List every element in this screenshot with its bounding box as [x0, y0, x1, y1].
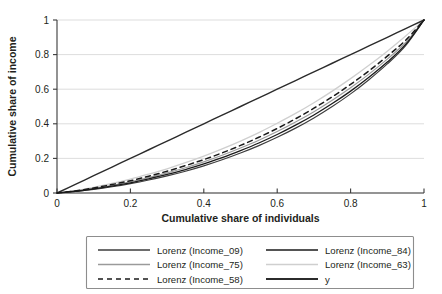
y-axis-title: Cumulative share of income — [6, 36, 18, 176]
x-tick-label-0.8: 0.8 — [344, 198, 358, 209]
y-tick-label-0.8: 0.8 — [35, 49, 49, 60]
x-tick-label-1: 1 — [421, 198, 427, 209]
x-tick-label-0.4: 0.4 — [197, 198, 211, 209]
legend-label-lorenz-income-63: Lorenz (Income_63) — [325, 259, 411, 270]
legend-label-lorenz-income-84: Lorenz (Income_84) — [325, 245, 411, 256]
x-tick-label-0: 0 — [54, 198, 60, 209]
x-tick-label-0.6: 0.6 — [270, 198, 284, 209]
y-tick-label-1: 1 — [43, 15, 49, 26]
x-tick-label-0.2: 0.2 — [123, 198, 137, 209]
legend-label-lorenz-income-58: Lorenz (Income_58) — [157, 274, 243, 285]
y-tick-label-0.2: 0.2 — [35, 153, 49, 164]
legend-label-lorenz-income-09: Lorenz (Income_09) — [157, 245, 243, 256]
y-tick-label-0.4: 0.4 — [35, 118, 49, 129]
y-tick-label-0.6: 0.6 — [35, 84, 49, 95]
x-axis-title: Cumulative share of individuals — [161, 212, 319, 224]
legend-label-y: y — [325, 274, 330, 285]
y-tick-label-0: 0 — [43, 188, 49, 199]
lorenz-curve-chart: 00.20.40.60.81 00.20.40.60.81 Cumulative… — [0, 0, 442, 294]
legend-label-lorenz-income-75: Lorenz (Income_75) — [157, 259, 243, 270]
